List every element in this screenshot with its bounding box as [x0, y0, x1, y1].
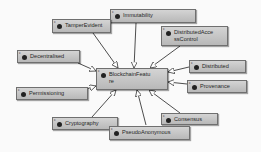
node-immutability[interactable]: c Immutability [110, 9, 196, 23]
class-dot-icon [192, 85, 197, 90]
node-label: Immutability [123, 12, 153, 18]
node-blockchainfeatures[interactable]: c BlockchainFeatu re [96, 68, 168, 90]
node-provenance[interactable]: c Provenance [187, 80, 247, 93]
edge-provenance [168, 82, 187, 84]
node-label: PseudoAnonymous [122, 129, 171, 135]
class-marker: c [191, 61, 193, 65]
class-marker: c [163, 114, 165, 118]
class-dot-icon [101, 73, 106, 78]
node-label: DistributedAcce ssControl [174, 29, 213, 42]
node-tamperevident[interactable]: c TamperEvident [52, 19, 111, 33]
node-consensus[interactable]: c Consensus [161, 113, 218, 125]
node-label: Consensus [174, 116, 202, 122]
node-decentralised[interactable]: c Decentralised [17, 50, 80, 63]
node-label: Provenance [200, 83, 230, 89]
node-label: Cryptography [65, 120, 99, 126]
edge-consensus [149, 90, 180, 113]
node-label: Permissioning [29, 90, 64, 96]
class-hierarchy-diagram: c Immutability c TamperEvident c Distrib… [0, 0, 261, 152]
class-marker: c [54, 20, 56, 24]
edge-pseudoanonymous [137, 90, 146, 125]
node-label: TamperEvident [65, 22, 102, 28]
class-dot-icon [21, 92, 26, 97]
class-marker: c [112, 10, 114, 14]
node-pseudoanonymous[interactable]: c PseudoAnonymous [109, 126, 190, 140]
node-distributed[interactable]: c Distributed [189, 60, 246, 73]
edge-distributedaccesscontrol [150, 46, 180, 68]
class-dot-icon [166, 31, 171, 36]
edge-cryptography [92, 90, 116, 117]
edge-distributed [168, 67, 189, 72]
node-distributedaccesscontrol[interactable]: c DistributedAcce ssControl [161, 26, 228, 46]
node-permissioning[interactable]: c Permissioning [16, 87, 88, 100]
node-label: Distributed [202, 63, 229, 69]
class-dot-icon [194, 65, 199, 70]
node-label: Decentralised [30, 53, 64, 59]
class-marker: c [189, 81, 191, 85]
class-dot-icon [166, 118, 171, 123]
class-dot-icon [57, 24, 62, 29]
class-dot-icon [22, 55, 27, 60]
node-label: BlockchainFeatu re [109, 71, 150, 84]
class-dot-icon [57, 122, 62, 127]
edge-immutability [134, 23, 136, 68]
class-marker: c [18, 88, 20, 92]
class-marker: c [111, 127, 113, 131]
class-marker: c [98, 69, 100, 73]
class-dot-icon [114, 131, 119, 136]
class-marker: c [54, 118, 56, 122]
class-marker: c [163, 27, 165, 31]
class-marker: c [19, 51, 21, 55]
edge-decentralised [78, 63, 96, 71]
class-dot-icon [115, 14, 120, 19]
edge-tamperevident [93, 33, 118, 68]
